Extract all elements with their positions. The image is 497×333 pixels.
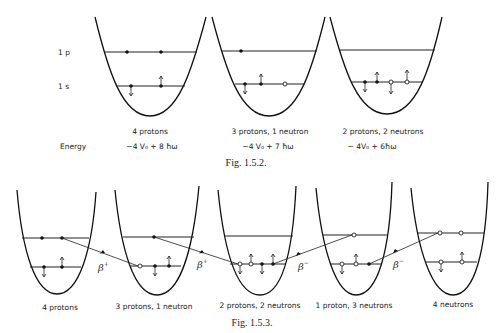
beta-label: β+: [196, 257, 208, 270]
beta-label: β+: [97, 260, 109, 273]
neutron: [439, 260, 443, 264]
spin-down-arrow-icon: [42, 267, 46, 277]
proton: [159, 50, 163, 54]
spin-up-arrow-icon: [249, 254, 253, 262]
potential-well: [95, 17, 206, 116]
energy-value: −4 V₀ + 8 ħω: [126, 142, 177, 151]
proton: [125, 50, 129, 54]
spin-up-arrow-icon: [460, 252, 464, 260]
spin-down-arrow-icon: [439, 264, 443, 272]
fig-1-5-2: 1 p 1 s: [58, 17, 442, 168]
neutron: [354, 262, 358, 266]
spin-up-arrow-icon: [159, 76, 163, 86]
spin-down-arrow-icon: [340, 266, 344, 274]
well-4-neutrons: [411, 182, 488, 295]
well-label: 1 proton, 3 neutrons: [316, 301, 393, 310]
energy-value: −4 V₀ + 7 ħω: [242, 142, 293, 151]
figure-canvas: 1 p 1 s: [0, 0, 497, 333]
well-3-protons-1-neutron: [212, 17, 325, 116]
spin-up-arrow-icon: [60, 257, 64, 267]
potential-well: [212, 17, 325, 116]
neutron: [249, 262, 253, 266]
level-label-1p: 1 p: [58, 48, 70, 57]
spin-down-arrow-icon: [389, 84, 393, 94]
spin-down-arrow-icon: [153, 266, 157, 276]
well-1-proton-3-neutrons: [316, 182, 392, 295]
spin-up-arrow-icon: [375, 72, 379, 82]
spin-up-arrow-icon: [271, 254, 275, 264]
neutron: [459, 231, 463, 235]
neutron: [405, 80, 409, 84]
spin-up-arrow-icon: [259, 74, 263, 84]
energy-label: Energy: [60, 142, 87, 151]
neutron: [389, 80, 393, 84]
spin-up-arrow-icon: [167, 256, 171, 266]
transition-arrow: [273, 235, 352, 264]
spin-down-arrow-icon: [260, 264, 264, 274]
well-label: 2 protons, 2 neutrons: [220, 301, 301, 310]
spin-down-arrow-icon: [238, 266, 242, 274]
well-4-protons: [95, 17, 206, 116]
spin-down-arrow-icon: [243, 84, 247, 94]
beta-label: β−: [297, 259, 309, 272]
spin-down-arrow-icon: [363, 82, 367, 92]
beta-label: β−: [392, 257, 404, 270]
level-label-1s: 1 s: [58, 82, 69, 91]
well-label: 4 neutrons: [433, 300, 473, 309]
well-label: 3 protons, 1 neutron: [116, 302, 193, 311]
proton: [239, 49, 243, 53]
well-label: 4 protons: [132, 127, 168, 136]
neutron: [340, 262, 344, 266]
well-label: 4 protons: [42, 303, 78, 312]
arrowhead-icon: [100, 250, 105, 254]
neutron: [352, 233, 356, 237]
well-label: 3 protons, 1 neutron: [232, 127, 309, 136]
figure-caption: Fig. 1.5.3.: [232, 317, 273, 328]
figure-caption: Fig. 1.5.2.: [226, 157, 267, 168]
well-4-protons: [17, 190, 96, 294]
well-2-protons-2-neutrons: [218, 186, 296, 295]
well-2-protons-2-neutrons: [330, 17, 442, 114]
neutron: [438, 231, 442, 235]
potential-well: [411, 182, 488, 295]
well-3-protons-1-neutron: [115, 186, 199, 295]
neutron: [460, 260, 464, 264]
spin-up-arrow-icon: [354, 254, 358, 262]
arrowhead-icon: [296, 252, 301, 256]
well-label: 2 protons, 2 neutrons: [343, 127, 424, 136]
neutron: [283, 82, 287, 86]
potential-well: [115, 186, 199, 295]
potential-well: [17, 190, 96, 294]
fig-1-5-3: β+ β+ β− β− 4 protons 3 protons, 1 neutr…: [17, 182, 488, 328]
neutron: [138, 264, 142, 268]
potential-well: [218, 186, 296, 295]
potential-well: [316, 182, 392, 295]
energy-value: − 4V₀ + 6ħω: [348, 142, 397, 151]
spin-up-arrow-icon: [405, 70, 409, 80]
potential-well: [330, 17, 442, 114]
proton: [40, 236, 44, 240]
neutron: [238, 262, 242, 266]
spin-down-arrow-icon: [129, 86, 133, 96]
